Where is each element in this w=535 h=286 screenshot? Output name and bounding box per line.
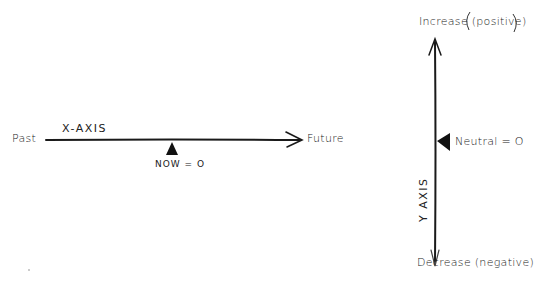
x-axis-title: X-AXIS — [62, 122, 107, 135]
neutral-marker-label: Neutral = O — [455, 135, 524, 148]
y-axis-top-label: Increase (positive) — [419, 15, 526, 28]
now-marker-label: NOW = O — [155, 159, 205, 169]
x-axis-right-label: Future — [307, 132, 344, 145]
now-marker-triangle-icon — [166, 142, 178, 155]
x-axis-left-label: Past — [12, 132, 36, 145]
y-axis-line — [435, 42, 436, 262]
y-axis-title: Y AXIS — [417, 177, 430, 222]
y-axis-bottom-label: Decrease (negative) — [417, 256, 534, 269]
neutral-marker-triangle-icon — [437, 133, 450, 151]
x-axis-line — [46, 140, 300, 141]
paper-speck — [28, 269, 30, 271]
